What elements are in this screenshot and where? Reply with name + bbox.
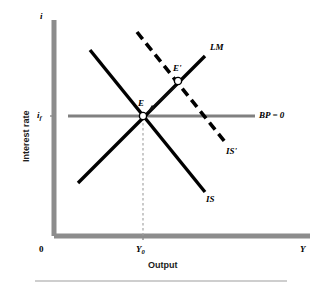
x-tick-base: Y — [136, 244, 142, 254]
lm-curve-label: LM — [210, 43, 224, 52]
point-label-e: E — [138, 99, 144, 108]
equilibrium-point-e-prime — [174, 77, 181, 84]
origin-label: 0 — [39, 245, 44, 254]
is-curve-label: IS — [206, 195, 215, 204]
y-axis-symbol: i — [40, 12, 43, 21]
x-axis-symbol: Y — [300, 245, 306, 254]
point-label-e-prime: E' — [173, 64, 182, 73]
equilibrium-point-e — [139, 112, 146, 119]
adjustment-arrow — [147, 86, 176, 113]
is-prime-curve-label: IS' — [226, 147, 237, 156]
y-tick-label-if: if — [37, 111, 42, 120]
x-tick-subscript: 0 — [142, 248, 145, 255]
is-lm-bp-figure: i Y 0 if Y0 LM IS IS' BP = 0 E E' Intere… — [0, 0, 322, 286]
x-axis-title: Output — [148, 261, 178, 270]
diagram-canvas — [0, 0, 322, 286]
bp-curve-label: BP = 0 — [259, 111, 284, 120]
y-axis-title: Interest rate — [22, 110, 31, 162]
x-tick-label-y0: Y0 — [136, 245, 145, 254]
y-tick-subscript: f — [40, 114, 42, 121]
